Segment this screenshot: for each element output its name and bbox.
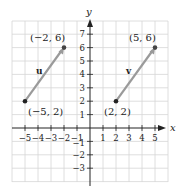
y-axis-label: y: [85, 6, 92, 17]
x-tick-label: 5: [152, 133, 157, 143]
point-v-head: [153, 45, 158, 50]
point-v-head-label: (5, 6): [129, 32, 156, 43]
x-axis-arrow-icon: [158, 125, 166, 131]
point-v-tail: [114, 99, 119, 104]
x-tick-label: −3: [45, 133, 58, 143]
y-tick-label: 3: [80, 83, 85, 93]
coordinate-plane: x y −5 −4 −3 −2 −1 1 2 3 4 5: [0, 0, 184, 186]
point-u-tail: [23, 99, 28, 104]
x-tick-label: −5: [19, 133, 32, 143]
x-tick-label: 2: [113, 133, 118, 143]
point-u-head-label: (−2, 6): [30, 32, 65, 43]
y-axis-arrow-icon: [87, 19, 93, 27]
x-tick-label: −4: [32, 133, 45, 143]
y-tick-label: 6: [80, 43, 85, 53]
x-tick-label: 3: [126, 133, 131, 143]
y-tick-label: −1: [72, 138, 85, 148]
vector-v-label: v: [125, 66, 132, 76]
x-axis: x: [12, 122, 176, 133]
y-tick-label: 7: [80, 29, 85, 39]
vector-u-label: u: [36, 66, 43, 76]
x-tick-label: 4: [139, 133, 144, 143]
point-v-tail-label: (2, 2): [104, 106, 131, 117]
y-tick-label: 4: [80, 69, 85, 79]
y-tick-label: 2: [80, 96, 85, 106]
point-u-head: [62, 45, 67, 50]
x-axis-label: x: [170, 122, 176, 133]
y-tick-label: 5: [80, 56, 85, 66]
y-tick-label: −3: [72, 163, 85, 173]
x-tick-label: −2: [58, 133, 71, 143]
y-tick-label: −2: [72, 150, 85, 160]
y-tick-label: 1: [80, 110, 85, 120]
y-axis: y: [85, 6, 93, 186]
point-u-tail-label: (−5, 2): [28, 106, 63, 117]
x-tick-label: 1: [100, 133, 105, 143]
